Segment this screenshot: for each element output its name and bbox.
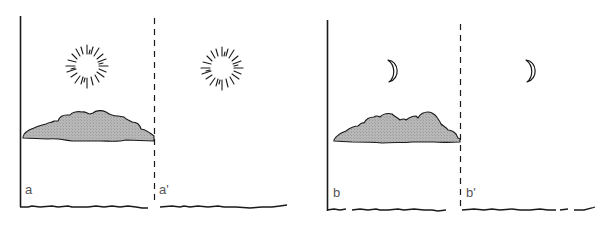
- sun-icon: [201, 47, 243, 90]
- panel-night: b b': [327, 20, 595, 211]
- ground-line: [20, 205, 287, 208]
- label-a-prime: a': [159, 182, 169, 197]
- label-b: b: [333, 185, 340, 200]
- cloud-shape: [334, 112, 460, 143]
- cloud-shading-diagram: a a' b b': [0, 0, 602, 227]
- cloud-shape: [23, 111, 154, 142]
- panel-day: a a': [20, 16, 287, 208]
- sun-icon: [66, 45, 108, 88]
- label-b-prime: b': [466, 185, 476, 200]
- moon-icon: [526, 60, 535, 82]
- moon-icon: [388, 60, 397, 82]
- label-a: a: [25, 182, 33, 197]
- ground-line: [327, 207, 595, 211]
